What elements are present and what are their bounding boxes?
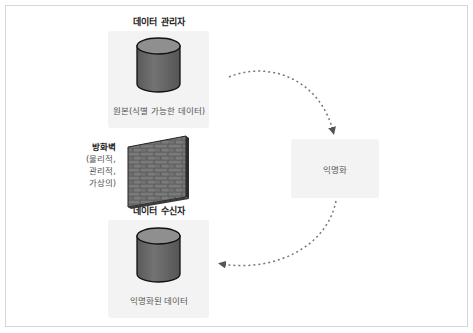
diagram-graphics — [0, 0, 473, 333]
brick-wall-icon — [128, 136, 189, 209]
database-cylinder-icon — [137, 228, 180, 282]
database-cylinder-icon — [137, 38, 180, 92]
edge-anonymization-to-recipient — [222, 201, 336, 266]
edge-controller-to-anonymization — [229, 71, 333, 131]
